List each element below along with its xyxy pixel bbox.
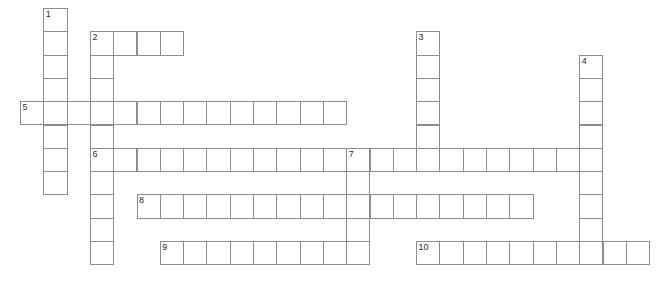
- crossword-cell[interactable]: [183, 101, 207, 125]
- crossword-cell[interactable]: [579, 171, 603, 195]
- crossword-cell[interactable]: [206, 148, 230, 172]
- crossword-cell[interactable]: [253, 194, 277, 218]
- crossword-cell[interactable]: [533, 148, 557, 172]
- crossword-cell[interactable]: 4: [579, 55, 603, 79]
- crossword-cell[interactable]: [43, 101, 67, 125]
- crossword-cell[interactable]: [253, 241, 277, 265]
- crossword-cell[interactable]: [416, 101, 440, 125]
- crossword-cell[interactable]: [276, 194, 300, 218]
- crossword-cell[interactable]: [206, 194, 230, 218]
- crossword-cell[interactable]: [579, 218, 603, 242]
- crossword-cell[interactable]: [603, 241, 627, 265]
- crossword-cell[interactable]: [43, 148, 67, 172]
- crossword-cell[interactable]: [509, 194, 533, 218]
- crossword-cell[interactable]: [439, 194, 463, 218]
- crossword-cell[interactable]: [160, 148, 184, 172]
- crossword-cell[interactable]: [113, 148, 137, 172]
- crossword-cell[interactable]: [43, 171, 67, 195]
- crossword-cell[interactable]: [90, 78, 114, 102]
- crossword-cell[interactable]: [579, 241, 603, 265]
- crossword-cell[interactable]: [137, 101, 161, 125]
- crossword-cell[interactable]: [370, 194, 394, 218]
- crossword-cell[interactable]: [416, 148, 440, 172]
- crossword-cell[interactable]: [113, 31, 137, 55]
- crossword-cell[interactable]: [346, 218, 370, 242]
- crossword-cell[interactable]: [276, 148, 300, 172]
- crossword-cell[interactable]: [90, 101, 114, 125]
- crossword-cell[interactable]: [579, 148, 603, 172]
- crossword-cell[interactable]: [253, 101, 277, 125]
- crossword-cell[interactable]: 7: [346, 148, 370, 172]
- crossword-cell[interactable]: [276, 101, 300, 125]
- crossword-cell[interactable]: [300, 194, 324, 218]
- crossword-cell[interactable]: [90, 194, 114, 218]
- crossword-cell[interactable]: [486, 148, 510, 172]
- crossword-cell[interactable]: [393, 194, 417, 218]
- crossword-cell[interactable]: [323, 148, 347, 172]
- crossword-cell[interactable]: [323, 241, 347, 265]
- crossword-cell[interactable]: [43, 55, 67, 79]
- crossword-cell[interactable]: [556, 241, 580, 265]
- crossword-cell[interactable]: [90, 241, 114, 265]
- crossword-cell[interactable]: [323, 194, 347, 218]
- crossword-cell[interactable]: [346, 171, 370, 195]
- crossword-cell[interactable]: [463, 241, 487, 265]
- crossword-cell[interactable]: [300, 148, 324, 172]
- crossword-cell[interactable]: [43, 125, 67, 149]
- crossword-cell[interactable]: [206, 241, 230, 265]
- crossword-cell[interactable]: 9: [160, 241, 184, 265]
- crossword-cell[interactable]: 5: [20, 101, 44, 125]
- crossword-cell[interactable]: [323, 101, 347, 125]
- crossword-cell[interactable]: [300, 101, 324, 125]
- crossword-cell[interactable]: [230, 101, 254, 125]
- crossword-cell[interactable]: [90, 125, 114, 149]
- crossword-cell[interactable]: 10: [416, 241, 440, 265]
- crossword-cell[interactable]: 1: [43, 8, 67, 32]
- crossword-cell[interactable]: 6: [90, 148, 114, 172]
- crossword-cell[interactable]: [579, 194, 603, 218]
- crossword-cell[interactable]: [137, 148, 161, 172]
- crossword-cell[interactable]: [253, 148, 277, 172]
- crossword-cell[interactable]: [370, 148, 394, 172]
- crossword-cell[interactable]: [230, 148, 254, 172]
- crossword-cell[interactable]: [276, 241, 300, 265]
- crossword-cell[interactable]: [463, 194, 487, 218]
- crossword-cell[interactable]: [486, 194, 510, 218]
- crossword-cell[interactable]: [160, 31, 184, 55]
- crossword-cell[interactable]: [230, 194, 254, 218]
- crossword-cell[interactable]: [160, 101, 184, 125]
- crossword-cell[interactable]: [416, 194, 440, 218]
- crossword-cell[interactable]: [113, 101, 137, 125]
- crossword-cell[interactable]: [439, 241, 463, 265]
- crossword-cell[interactable]: [43, 31, 67, 55]
- crossword-cell[interactable]: [67, 101, 91, 125]
- crossword-cell[interactable]: [486, 241, 510, 265]
- crossword-cell[interactable]: [509, 148, 533, 172]
- crossword-cell[interactable]: [90, 218, 114, 242]
- crossword-cell[interactable]: [183, 241, 207, 265]
- crossword-cell[interactable]: [43, 78, 67, 102]
- crossword-cell[interactable]: [393, 148, 417, 172]
- crossword-cell[interactable]: [183, 148, 207, 172]
- crossword-cell[interactable]: [579, 78, 603, 102]
- crossword-cell[interactable]: [439, 148, 463, 172]
- crossword-cell[interactable]: [556, 148, 580, 172]
- crossword-cell[interactable]: [230, 241, 254, 265]
- crossword-cell[interactable]: [416, 78, 440, 102]
- crossword-cell[interactable]: [463, 148, 487, 172]
- crossword-cell[interactable]: 2: [90, 31, 114, 55]
- crossword-cell[interactable]: [90, 55, 114, 79]
- crossword-cell[interactable]: 8: [137, 194, 161, 218]
- crossword-cell[interactable]: [206, 101, 230, 125]
- crossword-cell[interactable]: [346, 241, 370, 265]
- crossword-cell[interactable]: [183, 194, 207, 218]
- crossword-cell[interactable]: [300, 241, 324, 265]
- crossword-cell[interactable]: [137, 31, 161, 55]
- crossword-cell[interactable]: 3: [416, 31, 440, 55]
- crossword-cell[interactable]: [533, 241, 557, 265]
- crossword-cell[interactable]: [160, 194, 184, 218]
- crossword-cell[interactable]: [626, 241, 650, 265]
- crossword-cell[interactable]: [509, 241, 533, 265]
- crossword-cell[interactable]: [416, 55, 440, 79]
- crossword-cell[interactable]: [579, 101, 603, 125]
